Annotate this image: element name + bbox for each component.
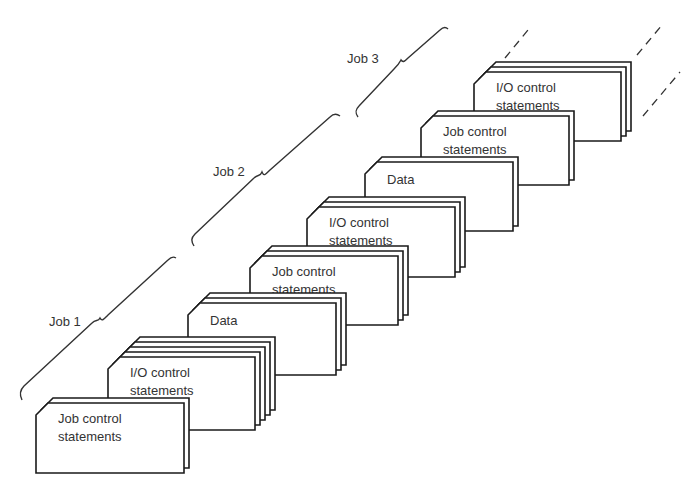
card-label-line1: Data bbox=[387, 172, 415, 187]
card-label-line2: statements bbox=[58, 429, 122, 444]
card-label-line1: I/O control bbox=[130, 365, 190, 380]
card-label-line1: I/O control bbox=[496, 80, 556, 95]
job-1-label: Job 1 bbox=[49, 314, 81, 329]
card-decks: I/O controlstatementsJob controlstatemen… bbox=[36, 62, 631, 473]
card-label-line1: I/O control bbox=[329, 215, 389, 230]
job-2-label: Job 2 bbox=[213, 164, 245, 179]
job-deck-diagram: Job 1 Job 2 Job 3 I/O controlstatementsJ… bbox=[0, 0, 690, 495]
card-label-line2: statements bbox=[130, 383, 194, 398]
job-3-brace: Job 3 bbox=[347, 28, 448, 117]
card-label-line1: Job control bbox=[272, 264, 336, 279]
card-label-line2: statements bbox=[443, 142, 507, 157]
card-deck-job-control-job-1: Job controlstatements bbox=[36, 398, 189, 473]
card-label-line1: Job control bbox=[58, 411, 122, 426]
card-label-line1: Job control bbox=[443, 124, 507, 139]
job-3-label: Job 3 bbox=[347, 51, 379, 66]
card-label-line1: Data bbox=[210, 313, 238, 328]
